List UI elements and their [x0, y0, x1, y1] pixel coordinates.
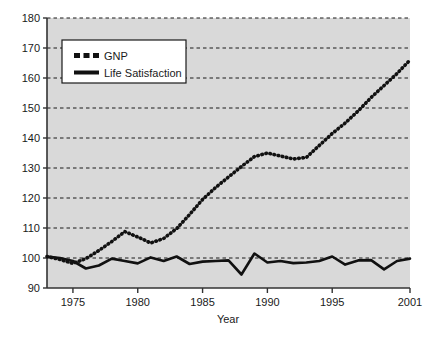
y-tick-label-180: 180	[22, 12, 40, 24]
x-tick-label-1990: 1990	[255, 296, 279, 308]
legend-swatch-gnp-dash-0	[74, 53, 80, 58]
x-tick-label-1980: 1980	[126, 296, 150, 308]
legend-label-gnp: GNP	[104, 50, 128, 62]
y-tick-label-160: 160	[22, 72, 40, 84]
x-tick-label-1985: 1985	[190, 296, 214, 308]
x-tick-label-2001: 2001	[398, 296, 422, 308]
x-axis-title: Year	[217, 313, 240, 325]
x-tick-label-1975: 1975	[61, 296, 85, 308]
y-tick-label-110: 110	[22, 222, 40, 234]
x-tick-label-1995: 1995	[320, 296, 344, 308]
y-tick-label-90: 90	[28, 282, 40, 294]
y-tick-label-150: 150	[22, 102, 40, 114]
legend-label-life-satisfaction: Life Satisfaction	[104, 67, 182, 79]
line-chart: 90100110120130140150160170180 1975198019…	[0, 0, 427, 340]
legend: GNPLife Satisfaction	[62, 40, 186, 83]
legend-swatch-gnp-dash-2	[93, 53, 99, 58]
legend-swatch-gnp-dash-1	[84, 53, 90, 58]
y-tick-label-170: 170	[22, 42, 40, 54]
y-tick-label-100: 100	[22, 252, 40, 264]
y-tick-label-130: 130	[22, 162, 40, 174]
chart-figure: 90100110120130140150160170180 1975198019…	[0, 0, 427, 340]
legend-swatch-life-satisfaction	[74, 71, 99, 75]
y-tick-label-140: 140	[22, 132, 40, 144]
y-tick-label-120: 120	[22, 192, 40, 204]
